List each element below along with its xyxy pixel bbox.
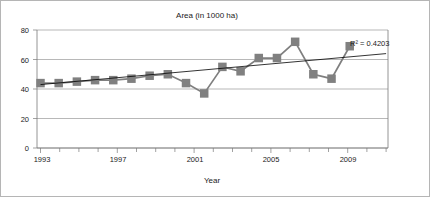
x-axis-title: Year xyxy=(204,176,221,185)
data-point-marker xyxy=(218,63,227,72)
data-point-marker xyxy=(109,76,118,85)
data-point-marker xyxy=(236,67,245,76)
y-tick-label-80: 80 xyxy=(21,26,29,35)
y-tick-label-20: 20 xyxy=(21,115,29,124)
data-point-marker xyxy=(182,79,191,88)
x-tick-label-2001: 2001 xyxy=(187,155,204,164)
x-tick-label-2009: 2009 xyxy=(340,155,357,164)
data-point-marker xyxy=(327,74,336,83)
chart-container: Area (in 1000 ha) 80 60 40 20 0 xyxy=(0,0,430,197)
data-point-marker xyxy=(36,79,45,88)
chart-background xyxy=(0,0,430,197)
data-point-marker xyxy=(291,38,300,47)
chart-title: Area (in 1000 ha) xyxy=(176,11,238,20)
r-squared-annotation: R² = 0.4203 xyxy=(350,39,389,48)
data-point-marker xyxy=(145,71,154,80)
x-tick-label-2005: 2005 xyxy=(263,155,280,164)
data-point-marker xyxy=(255,54,264,63)
data-point-marker xyxy=(127,74,136,83)
x-tick-label-1997: 1997 xyxy=(110,155,127,164)
area-over-year-line-chart: Area (in 1000 ha) 80 60 40 20 0 xyxy=(0,0,430,197)
x-tick-label-1993: 1993 xyxy=(34,155,51,164)
y-tick-label-60: 60 xyxy=(21,56,29,65)
y-tick-label-0: 0 xyxy=(25,144,29,153)
y-tick-label-40: 40 xyxy=(21,85,29,94)
data-point-marker xyxy=(273,54,282,63)
data-point-marker xyxy=(164,70,173,79)
data-point-marker xyxy=(200,89,209,98)
data-point-marker xyxy=(309,70,318,79)
